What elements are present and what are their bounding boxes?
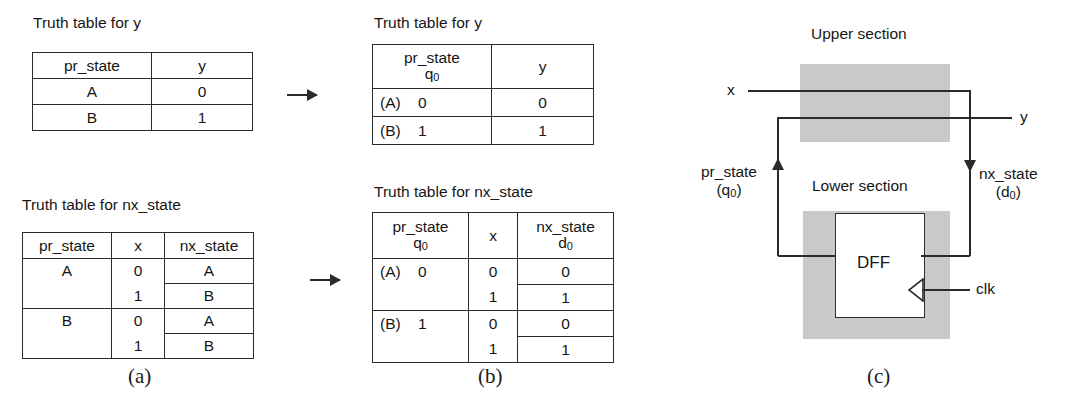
- panel-b-table-y-caption: Truth table for y: [374, 14, 482, 31]
- col-header-y: y: [152, 53, 253, 79]
- cell-q0: 1: [418, 122, 427, 140]
- pr-state-label-group: pr_state (q0): [683, 163, 775, 202]
- cell-pr-state: [23, 334, 112, 359]
- col-header-q0: q0: [373, 66, 491, 84]
- cell-state-label: (A): [380, 94, 418, 112]
- pr-state-sub-close: ): [736, 181, 741, 198]
- col-header-pr-state: pr_state: [373, 50, 491, 66]
- cell-q0: 1: [418, 315, 427, 333]
- cell-pr-state: A: [33, 79, 152, 105]
- panel-a-table-y: pr_state y A 0 B 1: [32, 52, 253, 131]
- nx-state-wire-upper: [969, 90, 971, 167]
- table-row: pr_state y: [33, 53, 253, 79]
- panel-a-table-nx-caption: Truth table for nx_state: [22, 196, 181, 213]
- dff-label: DFF: [857, 253, 890, 273]
- cell-d0: 0: [518, 311, 614, 337]
- col-header-y: y: [492, 45, 594, 89]
- cell-x: 1: [469, 285, 518, 311]
- panel-b-table-nx: pr_state q0 x nx_state d0 (A) 0 0 0: [372, 212, 614, 363]
- panel-label-a: (a): [128, 364, 151, 389]
- cell-pr-state: B: [33, 105, 152, 131]
- col-header-pr-state: pr_state: [33, 53, 152, 79]
- cell-pr-state: A: [23, 259, 112, 284]
- figure-canvas: Truth table for y pr_state y A 0 B 1 Tru…: [0, 0, 1090, 416]
- cell-q0: 0: [418, 94, 427, 112]
- nx-state-sub-open: (d: [996, 183, 1010, 200]
- table-row: pr_state q0 y: [373, 45, 594, 89]
- table-row: pr_state q0 x nx_state d0: [373, 213, 614, 259]
- table-row: B 0 A: [23, 309, 254, 334]
- cell-y: 0: [152, 79, 253, 105]
- cell-x: 0: [469, 259, 518, 285]
- panel-b-table-y: pr_state q0 y (A) 0 0 (B) 1 1: [372, 44, 594, 145]
- nx-state-label-group: nx_state (d0): [979, 165, 1038, 204]
- table-row: A 0: [33, 79, 253, 105]
- col-header-pr-state: pr_state: [23, 233, 112, 259]
- transform-arrow-bottom: [310, 279, 340, 281]
- lower-section-label: Lower section: [812, 177, 908, 194]
- table-row: (B) 1 0 0: [373, 311, 614, 337]
- col-header-q0: q0: [373, 235, 468, 253]
- cell-nx-state: A: [165, 309, 254, 334]
- panel-label-b: (b): [478, 364, 503, 389]
- nx-state-label: nx_state: [979, 165, 1038, 182]
- cell-x: 0: [112, 309, 165, 334]
- pr-state-wire-from-dff: [778, 255, 836, 257]
- cell-nx-state: A: [165, 259, 254, 284]
- pr-state-wire-lower: [777, 170, 779, 256]
- cell-state-q0: [373, 337, 469, 363]
- cell-d0: 1: [518, 285, 614, 311]
- col-header-nx-state: nx_state: [518, 219, 613, 235]
- table-row: B 1: [33, 105, 253, 131]
- cell-state-q0: (B) 1: [373, 117, 492, 145]
- cell-x: 1: [112, 334, 165, 359]
- cell-x: 0: [469, 311, 518, 337]
- clk-label: clk: [976, 280, 995, 297]
- upper-section-block: [800, 64, 950, 142]
- upper-section-label: Upper section: [811, 25, 907, 42]
- col-header-x: x: [469, 213, 518, 259]
- output-y-wire: [778, 117, 1012, 119]
- cell-state-q0: (A) 0: [373, 259, 469, 285]
- input-x-wire: [748, 90, 970, 92]
- cell-pr-state: [23, 284, 112, 309]
- cell-q0: 0: [418, 263, 427, 281]
- cell-x: 1: [112, 284, 165, 309]
- col-header-nx-state: nx_state: [165, 233, 254, 259]
- table-row: 1 B: [23, 334, 254, 359]
- col-header-d0: d0: [518, 235, 613, 253]
- cell-nx-state: B: [165, 334, 254, 359]
- col-header-nx-state-d0: nx_state d0: [518, 213, 614, 259]
- cell-y: 1: [492, 117, 594, 145]
- cell-state-label: (B): [380, 315, 418, 333]
- input-x-label: x: [727, 81, 735, 98]
- cell-state-q0: (A) 0: [373, 89, 492, 117]
- table-row: pr_state x nx_state: [23, 233, 254, 259]
- col-header-pr-state-q0: pr_state q0: [373, 213, 469, 259]
- col-header-x: x: [112, 233, 165, 259]
- panel-a-table-y-caption: Truth table for y: [33, 14, 141, 31]
- transform-arrow-top: [287, 94, 317, 96]
- nx-state-wire-into-dff: [921, 255, 970, 257]
- panel-label-c: (c): [867, 364, 890, 389]
- table-row: (A) 0 0 0: [373, 259, 614, 285]
- output-y-label: y: [1020, 108, 1028, 125]
- pr-state-wire-upper: [777, 117, 779, 163]
- cell-d0: 1: [518, 337, 614, 363]
- col-header-pr-state: pr_state: [373, 219, 468, 235]
- cell-state-label: (B): [380, 122, 418, 140]
- table-row: 1 1: [373, 337, 614, 363]
- clk-wire: [922, 289, 970, 291]
- pr-state-label: pr_state: [701, 163, 757, 180]
- table-row: A 0 A: [23, 259, 254, 284]
- cell-nx-state: B: [165, 284, 254, 309]
- cell-x: 0: [112, 259, 165, 284]
- cell-y: 0: [492, 89, 594, 117]
- panel-a-table-nx: pr_state x nx_state A 0 A 1 B B 0 A 1 B: [22, 232, 254, 359]
- table-row: 1 B: [23, 284, 254, 309]
- table-row: (A) 0 0: [373, 89, 594, 117]
- cell-state-label: (A): [380, 263, 418, 281]
- cell-y: 1: [152, 105, 253, 131]
- nx-state-wire-lower: [969, 170, 971, 256]
- pr-state-sub-open: (q: [716, 181, 730, 198]
